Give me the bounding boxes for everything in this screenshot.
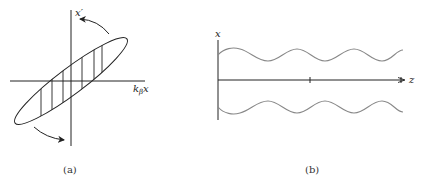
caption-a: (a)	[63, 164, 77, 175]
rotation-arrow-upper-icon	[80, 19, 109, 34]
y-axis-label-b: x	[215, 28, 221, 39]
y-axis-label-a: x′	[75, 7, 84, 18]
x-axis-label-a: kβx	[133, 83, 149, 96]
panel-a: x′ kβx (a)	[7, 7, 149, 175]
upper-envelope-wave	[218, 48, 403, 61]
figure: x′ kβx (a) x z (b)	[0, 0, 422, 184]
rotation-arrow-lower-icon	[34, 127, 64, 140]
caption-b: (b)	[305, 164, 319, 175]
z-axis-label: z	[408, 74, 415, 85]
panel-b: x z (b)	[215, 28, 415, 175]
lower-envelope-wave	[218, 101, 403, 114]
